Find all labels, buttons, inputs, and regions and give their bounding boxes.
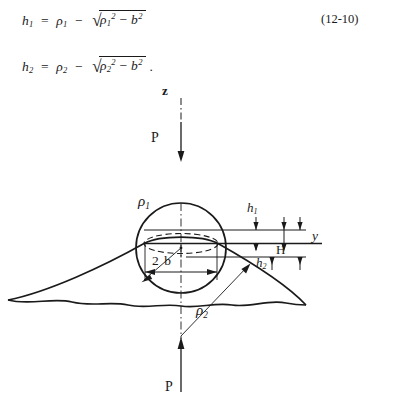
dim-h1-arrow-right (297, 222, 302, 230)
eq1-rad-minus: − (120, 12, 128, 27)
contact-mechanics-diagram: z P ρ1 2 b h1 H h2 y ρ2 P (0, 84, 409, 407)
figure-page: h1 = ρ1 − √ρ12 − b2 h2 = ρ2 − √ρ22 − b2 … (0, 0, 409, 407)
eq2-rad-rho: ρ (100, 58, 107, 73)
label-rho1-subscript: 1 (145, 201, 150, 211)
dim-2b-arrow-left (145, 269, 155, 275)
eq2-minus: − (75, 59, 83, 74)
eq1-rho-sub: 1 (63, 19, 68, 29)
label-rho2-subscript: 2 (203, 310, 208, 320)
eq1-minus: − (75, 13, 83, 28)
label-force-bottom: P (165, 380, 173, 394)
dim-h1-arrow-mid (281, 222, 286, 230)
label-force-top: P (151, 131, 159, 145)
label-height-h1: h1 (247, 201, 258, 216)
eq2-rho-sub: 2 (63, 65, 68, 75)
diagram-svg (0, 84, 409, 407)
dim-h2-arrow-left (269, 257, 274, 265)
eq1-rad-rho-sup: 2 (111, 11, 116, 21)
force-arrow-top-head (178, 151, 185, 162)
label-axis-z: z (162, 84, 168, 97)
dim-h2-arrow-right (297, 257, 302, 265)
eq2-rad-minus: − (120, 58, 128, 73)
label-radius-rho1: ρ1 (138, 194, 150, 211)
eq1-radicand: ρ12 − b2 (99, 10, 146, 28)
eq2-equals: = (41, 59, 49, 74)
label-h2-subscript: 2 (263, 262, 267, 271)
eq2-radical-group: √ρ22 − b2 (90, 57, 145, 77)
eq1-lhs: h (22, 13, 29, 28)
label-total-height: H (276, 243, 285, 256)
label-h1-subscript: 1 (254, 207, 258, 216)
label-radius-rho2: ρ2 (196, 303, 208, 320)
label-contact-width: 2 b (152, 254, 172, 268)
radius-leader-rho2 (181, 266, 248, 336)
equation-h2: h2 = ρ2 − √ρ22 − b2 . (22, 57, 153, 77)
eq1-lhs-sub: 1 (29, 19, 34, 29)
equation-number: (12-10) (321, 12, 359, 27)
eq2-radicand: ρ22 − b2 (99, 56, 146, 74)
eq1-rad-b-sup: 2 (138, 11, 143, 21)
dim-h1-arrow-left (253, 222, 258, 230)
equation-h1: h1 = ρ1 − √ρ12 − b2 (22, 11, 146, 31)
eq2-rad-rho-sup: 2 (111, 57, 116, 67)
dim-2b-arrow-right (207, 269, 217, 275)
lower-body-break-line (8, 300, 306, 307)
eq1-equals: = (41, 13, 49, 28)
eq2-rad-b-sup: 2 (138, 57, 143, 67)
eq1-rad-rho: ρ (100, 12, 107, 27)
eq1-radical-group: √ρ12 − b2 (90, 11, 145, 31)
eq2-lhs: h (22, 59, 29, 74)
eq2-period: . (149, 59, 153, 74)
label-axis-y: y (312, 229, 318, 243)
eq2-lhs-sub: 2 (29, 65, 34, 75)
label-height-h2: h2 (256, 256, 267, 271)
